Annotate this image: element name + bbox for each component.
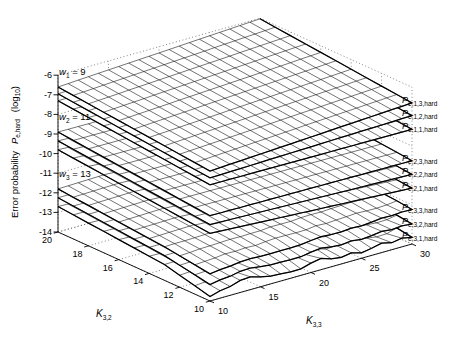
x-tick-label: 15 [269, 293, 279, 302]
y-tick-label: 14 [133, 277, 143, 286]
surface-label-e33: Pe,3,3,hard [402, 203, 437, 214]
surface-label-e11: Pe,1,1,hard [402, 122, 437, 133]
x-tick-label: 30 [420, 250, 430, 259]
z-axis-label-var: P [9, 138, 20, 144]
z-axis-label-unit-sub: 10 [14, 89, 21, 96]
z-axis-label-unit-close: ) [9, 86, 20, 89]
z-tick-label: -9 [44, 130, 52, 139]
group-label-w2: w2 = 11 [59, 111, 90, 124]
y-tick-label: 20 [42, 236, 52, 245]
surface-label-e21: Pe,2,1,hard [402, 181, 437, 192]
y-axis-label: K3,2 [96, 308, 112, 321]
z-tick-label: -6 [44, 71, 52, 80]
z-tick-label: -11 [40, 169, 52, 178]
surface-label-e13: Pe,1,3,hard [402, 96, 437, 107]
group-label-w1: w1 = 9 [59, 66, 86, 79]
x-tick-label: 20 [319, 279, 329, 288]
y-tick-label: 10 [194, 305, 204, 314]
z-axis-label-var-sub: e,hard [14, 119, 21, 137]
group-label-w3: w3 = 13 [59, 168, 91, 181]
z-tick-label: -12 [39, 188, 52, 197]
z-axis-label: Error probabilityPe,hard(log10) [9, 86, 22, 218]
x-tick-label: 25 [370, 264, 380, 273]
z-tick-label: -10 [39, 149, 52, 158]
z-axis-label-text: Error probability [9, 151, 20, 218]
y-tick-label: 16 [103, 264, 113, 273]
y-tick-label: 18 [72, 250, 82, 259]
z-tick-label: -8 [44, 110, 52, 119]
z-axis-label-unit: (log [9, 96, 20, 112]
z-tick-label: -13 [39, 208, 52, 217]
x-axis-label: K3,3 [306, 315, 322, 328]
surface-label-e32: Pe,3,2,hard [402, 217, 437, 228]
z-tick-label: -7 [44, 90, 52, 99]
surface-label-e22: Pe,2,2,hard [402, 167, 437, 178]
surface-label-e12: Pe,1,2,hard [402, 109, 437, 120]
surface-label-e31: Pe,3,1,hard [402, 231, 437, 242]
x-tick-label: 10 [218, 307, 228, 316]
y-tick-label: 12 [164, 291, 174, 300]
surface-label-e23: Pe,2,3,hard [402, 154, 437, 165]
mesh-figure: Error probabilityPe,hard(log10) -6 -7 -8… [0, 0, 464, 346]
